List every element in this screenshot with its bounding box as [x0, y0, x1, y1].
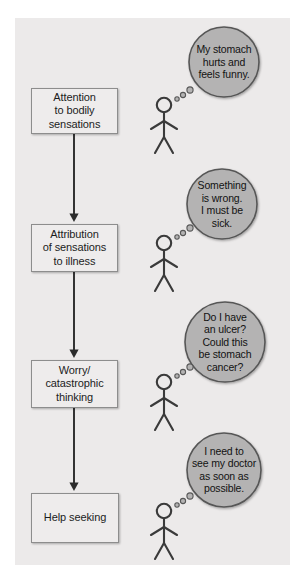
thought-tail-dot-worry-2	[180, 369, 185, 374]
flow-arrow-1	[69, 134, 78, 222]
flow-arrow-3	[69, 408, 78, 491]
arrow-head-3	[69, 483, 78, 492]
stage-box-label-attention: Attention to bodily sensations	[49, 91, 101, 132]
stick-figure-leg-left-attention	[155, 137, 164, 153]
stick-figure-arm-right-help-seeking	[164, 527, 177, 535]
thought-bubble-help-seeking	[187, 433, 261, 507]
stick-figure-leg-right-attention	[164, 137, 173, 153]
thought-tail-attribution	[175, 225, 193, 239]
thought-bubble-circle-worry	[185, 302, 265, 382]
thought-bubble-circle-attribution	[187, 169, 257, 239]
stage-box-attribution: Attribution of sensations to illness	[31, 224, 118, 272]
stick-figure-head-help-seeking	[157, 504, 171, 518]
arrow-head-1	[69, 214, 78, 223]
health-anxiety-diagram: Attention to bodily sensationsAttributio…	[0, 0, 304, 588]
thought-bubble-attention	[189, 27, 259, 97]
stick-figure-arm-right-attention	[164, 121, 177, 129]
thought-tail-dot-help-seeking-2	[180, 498, 185, 503]
stick-figures-group	[151, 98, 177, 559]
thought-tail-dot-attention-1	[175, 97, 179, 101]
stick-figure-head-worry	[157, 375, 171, 389]
stick-figure-arm-left-attribution	[151, 259, 164, 267]
stick-figure-worry	[151, 375, 177, 430]
thought-bubble-circle-attention	[189, 27, 259, 97]
thought-tail-attention	[175, 87, 193, 101]
stick-figure-head-attribution	[157, 236, 171, 250]
thought-tail-dot-attribution-2	[180, 230, 185, 235]
thought-tail-help-seeking	[175, 493, 193, 507]
thought-tail-worry	[175, 364, 193, 378]
flow-arrows-group	[69, 134, 78, 491]
thought-tail-dot-worry-3	[187, 364, 193, 370]
thought-tail-dot-attention-3	[187, 87, 193, 93]
stick-figure-arm-right-attribution	[164, 259, 177, 267]
stage-box-label-attribution: Attribution of sensations to illness	[43, 228, 107, 269]
thought-tail-dot-help-seeking-3	[187, 493, 193, 499]
thought-tail-dot-attribution-3	[187, 225, 193, 231]
thought-tail-dot-worry-1	[175, 374, 179, 378]
stage-box-attention: Attention to bodily sensations	[31, 88, 118, 134]
stick-figure-help-seeking	[151, 504, 177, 559]
stick-figure-attention	[151, 98, 177, 153]
thought-tail-dot-attention-2	[180, 92, 185, 97]
stick-figure-arm-right-worry	[164, 398, 177, 406]
stick-figure-leg-right-attribution	[164, 275, 173, 291]
stage-box-worry: Worry/ catastrophic thinking	[31, 360, 118, 408]
thought-tail-dot-help-seeking-1	[175, 503, 179, 507]
stage-box-label-worry: Worry/ catastrophic thinking	[45, 364, 103, 405]
stick-figure-leg-right-worry	[164, 414, 173, 430]
thought-bubble-circle-help-seeking	[187, 433, 261, 507]
thought-bubble-worry	[185, 302, 265, 382]
stick-figure-attribution	[151, 236, 177, 291]
flow-arrow-2	[69, 272, 78, 358]
thought-tail-dot-attribution-1	[175, 235, 179, 239]
stick-figure-leg-left-attribution	[155, 275, 164, 291]
thought-bubble-attribution	[187, 169, 257, 239]
stage-box-help-seeking: Help seeking	[31, 493, 119, 543]
arrow-head-2	[69, 350, 78, 359]
stick-figure-arm-left-help-seeking	[151, 527, 164, 535]
stage-box-label-help-seeking: Help seeking	[44, 511, 106, 525]
stick-figure-head-attention	[157, 98, 171, 112]
stick-figure-leg-left-worry	[155, 414, 164, 430]
stick-figure-leg-left-help-seeking	[155, 543, 164, 559]
stick-figure-leg-right-help-seeking	[164, 543, 173, 559]
stick-figure-arm-left-worry	[151, 398, 164, 406]
thought-bubbles-group	[175, 27, 265, 507]
stick-figure-arm-left-attention	[151, 121, 164, 129]
